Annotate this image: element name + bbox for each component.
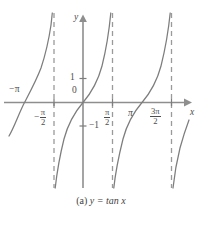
x-axis-label: x (190, 108, 194, 118)
x-axis-arrowhead (184, 99, 192, 107)
neg-pi-symbol: π (15, 84, 20, 94)
y-axis (79, 15, 87, 189)
caption-equation: y = tan x (90, 195, 126, 206)
tan-branch-right (114, 13, 170, 188)
three-pi-over-2-denominator: 2 (150, 117, 161, 126)
origin-label: 0 (72, 86, 77, 96)
tangent-plot (0, 0, 202, 192)
figure-caption: (a) y = tan x (0, 195, 202, 206)
y-label-one: 1 (70, 73, 75, 83)
x-axis (4, 99, 192, 107)
y-axis-arrowhead (79, 15, 87, 23)
x-label-3pi-over-2: 3π2 (150, 107, 161, 126)
tan-branch-far-right (173, 120, 189, 188)
x-label-neg-pi: −π (9, 85, 20, 95)
neg-pi-over-2-fraction: π2 (40, 108, 46, 127)
curve-group (9, 13, 189, 188)
y-label-neg-one: −1 (89, 121, 99, 131)
tangent-function-figure: y x 0 1 −1 −π −π2 π2 π 3π2 (a) y = tan x (0, 0, 202, 226)
neg-pi-over-2-denominator: 2 (40, 118, 46, 127)
caption-prefix: (a) (76, 195, 87, 206)
three-pi-over-2-fraction: 3π2 (150, 107, 161, 126)
pi-over-2-fraction: π2 (104, 108, 110, 127)
pi-over-2-denominator: 2 (104, 118, 110, 127)
x-label-pi: π (128, 109, 133, 119)
x-label-neg-pi-over-2: −π2 (34, 108, 46, 127)
y-axis-label: y (74, 13, 78, 23)
x-label-pi-over-2: π2 (104, 108, 110, 127)
